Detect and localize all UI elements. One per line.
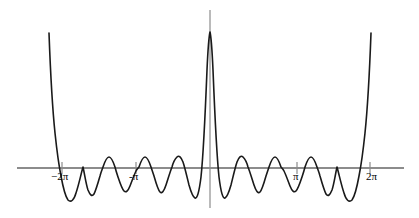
tick-label-pi: π (293, 171, 299, 182)
tick-label-minus-pi: -π (129, 171, 138, 182)
function-plot-figure: −2π -π π 2π (0, 0, 419, 218)
tick-label-minus-two-pi: −2π (51, 171, 68, 182)
plot-canvas (0, 0, 419, 218)
tick-label-two-pi: 2π (366, 171, 377, 182)
